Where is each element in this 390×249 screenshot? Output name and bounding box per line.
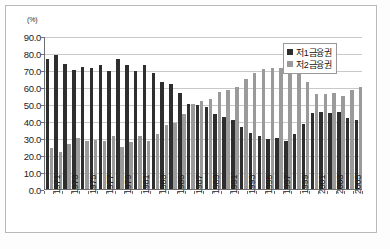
bar-group [54, 37, 63, 189]
y-axis: 0.010.020.030.040.050.060.070.080.090.0 [0, 37, 41, 190]
bar [306, 82, 310, 189]
y-tick-label: 10.0 [1, 168, 41, 179]
bar [311, 113, 315, 189]
bar-group [257, 37, 266, 189]
bar [240, 127, 244, 189]
x-tick-mark [62, 191, 63, 194]
bar-group [63, 37, 72, 189]
bar [99, 65, 103, 189]
bar [134, 71, 138, 189]
legend-swatch-series1 [287, 49, 293, 55]
bar [54, 55, 58, 189]
bar [244, 79, 248, 189]
bar [279, 68, 283, 189]
y-tick-label: 20.0 [1, 151, 41, 162]
bar-group [107, 37, 116, 189]
bar-group [248, 37, 257, 189]
bar [143, 65, 147, 189]
bar-group [133, 37, 142, 189]
bar-group [222, 37, 231, 189]
x-tick-mark [318, 191, 319, 194]
bar-group [151, 37, 160, 189]
bar-group [195, 37, 204, 189]
y-tick-label: 50.0 [1, 100, 41, 111]
bar-group [142, 37, 151, 189]
y-tick-label: 60.0 [1, 83, 41, 94]
x-tick-mark [353, 191, 354, 194]
bar [187, 104, 191, 189]
x-tick-mark [362, 191, 363, 194]
x-tick-mark [309, 191, 310, 194]
y-axis-unit-label: (%) [27, 16, 37, 23]
bar [288, 65, 292, 189]
bar [297, 73, 301, 189]
x-tick-mark [327, 191, 328, 194]
bar [72, 70, 76, 189]
x-tick-mark [256, 191, 257, 194]
x-tick-mark [291, 191, 292, 194]
bar [328, 113, 332, 189]
x-tick-mark [238, 191, 239, 194]
x-tick-mark [283, 191, 284, 194]
bar-group [345, 37, 354, 189]
x-tick-mark [106, 191, 107, 194]
bar [205, 107, 209, 189]
x-tick-mark [79, 191, 80, 194]
x-tick-mark [53, 191, 54, 194]
x-tick-mark [336, 191, 337, 194]
x-axis: 1971197319751977197919811983198519871989… [44, 191, 362, 243]
x-tick-mark [132, 191, 133, 194]
bar-group [98, 37, 107, 189]
x-tick-mark [44, 191, 45, 194]
bar-group [72, 37, 81, 189]
x-tick-mark [150, 191, 151, 194]
bar [222, 117, 226, 189]
bar-group [116, 37, 125, 189]
x-tick-mark [97, 191, 98, 194]
bar [81, 67, 85, 189]
bar [275, 138, 279, 189]
y-tick-label: 30.0 [1, 134, 41, 145]
x-tick-mark [221, 191, 222, 194]
y-tick-label: 80.0 [1, 49, 41, 60]
bar [359, 87, 363, 189]
x-tick-mark [274, 191, 275, 194]
bar [152, 73, 156, 189]
bar-group [125, 37, 134, 189]
y-tick-label: 90.0 [1, 32, 41, 43]
bar [262, 69, 266, 189]
bar-group [266, 37, 275, 189]
bar-group [178, 37, 187, 189]
bar-group [186, 37, 195, 189]
x-tick-mark [344, 191, 345, 194]
x-tick-mark [159, 191, 160, 194]
x-tick-mark [300, 191, 301, 194]
bar-group [80, 37, 89, 189]
bar [125, 65, 129, 189]
x-tick-mark [141, 191, 142, 194]
bar [258, 136, 262, 189]
bar-group [239, 37, 248, 189]
x-tick-mark [177, 191, 178, 194]
bar [63, 64, 67, 189]
bar [90, 68, 94, 189]
chart-legend: 저1금융권 저2금융권 [283, 43, 337, 74]
bar-group [213, 37, 222, 189]
x-tick-mark [124, 191, 125, 194]
legend-label-series2: 저2금융권 [296, 58, 332, 71]
bar-group [354, 37, 363, 189]
bar [169, 84, 173, 189]
bar-group [45, 37, 54, 189]
bar [293, 134, 297, 189]
x-tick-mark [115, 191, 116, 194]
bar [346, 118, 350, 189]
x-tick-mark [168, 191, 169, 194]
bar [160, 82, 164, 189]
x-tick-mark [194, 191, 195, 194]
bar [253, 73, 257, 189]
bar-group [169, 37, 178, 189]
x-tick-mark [230, 191, 231, 194]
y-tick-label: 70.0 [1, 66, 41, 77]
bar-group [337, 37, 346, 189]
x-tick-mark [71, 191, 72, 194]
